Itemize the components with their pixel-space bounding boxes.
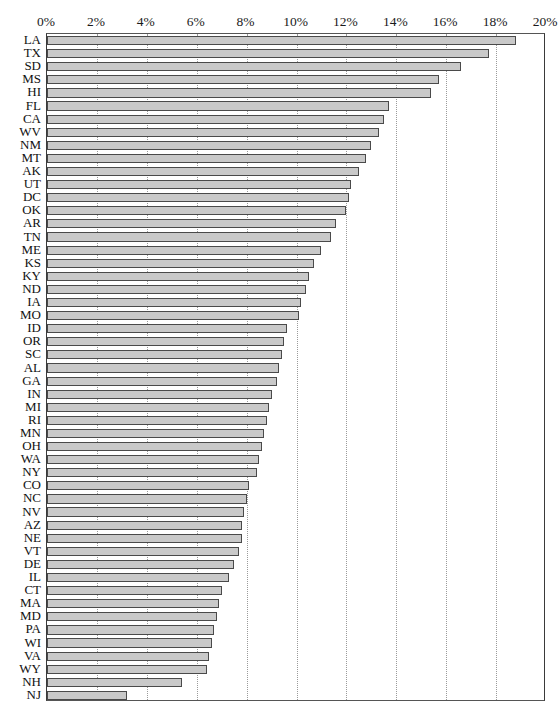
- bar: [47, 101, 389, 110]
- bar: [47, 259, 314, 268]
- bar-row: [47, 521, 544, 530]
- bar: [47, 285, 306, 294]
- x-tick-label: 0%: [37, 14, 55, 30]
- bar-row: [47, 586, 544, 595]
- x-tick-label: 8%: [237, 14, 255, 30]
- bar-row: [47, 219, 544, 228]
- bar-row: [47, 154, 544, 163]
- bar: [47, 115, 384, 124]
- bar-row: [47, 599, 544, 608]
- bar-row: [47, 390, 544, 399]
- bar: [47, 586, 222, 595]
- bar-row: [47, 259, 544, 268]
- bar: [47, 403, 269, 412]
- bar-row: [47, 193, 544, 202]
- bar-row: [47, 534, 544, 543]
- bar: [47, 599, 219, 608]
- bar-row: [47, 62, 544, 71]
- bar-row: [47, 442, 544, 451]
- bar-row: [47, 560, 544, 569]
- bar-row: [47, 298, 544, 307]
- y-axis-tick-labels: LATXSDMSHIFLCAWVNMMTAKUTDCOKARTNMEKSKYND…: [0, 33, 44, 701]
- bar-row: [47, 141, 544, 150]
- bar: [47, 180, 351, 189]
- bar-row: [47, 180, 544, 189]
- bar: [47, 377, 277, 386]
- bar-row: [47, 573, 544, 582]
- bar-row: [47, 49, 544, 58]
- plot-area: [46, 33, 545, 701]
- bar: [47, 665, 207, 674]
- bar: [47, 560, 234, 569]
- bar: [47, 494, 247, 503]
- bar: [47, 481, 249, 490]
- bar: [47, 652, 209, 661]
- bar-row: [47, 128, 544, 137]
- x-tick-label: 18%: [483, 14, 508, 30]
- bar-row: [47, 311, 544, 320]
- bar: [47, 534, 242, 543]
- x-tick-label: 6%: [187, 14, 205, 30]
- bar-row: [47, 206, 544, 215]
- bar-row: [47, 36, 544, 45]
- bar: [47, 638, 212, 647]
- bar-row: [47, 665, 544, 674]
- bar: [47, 272, 309, 281]
- bar: [47, 219, 336, 228]
- bar-row: [47, 115, 544, 124]
- bar-row: [47, 547, 544, 556]
- bar-row: [47, 625, 544, 634]
- x-tick-label: 16%: [433, 14, 458, 30]
- bar: [47, 455, 259, 464]
- bar-row: [47, 101, 544, 110]
- bar-row: [47, 337, 544, 346]
- bar: [47, 167, 359, 176]
- bar: [47, 678, 182, 687]
- bar-row: [47, 246, 544, 255]
- bar: [47, 298, 301, 307]
- bar-row: [47, 88, 544, 97]
- bar: [47, 429, 264, 438]
- y-tick-label: NJ: [27, 687, 41, 702]
- bar: [47, 625, 214, 634]
- bar: [47, 612, 217, 621]
- x-tick-label: 4%: [137, 14, 155, 30]
- bar: [47, 507, 244, 516]
- bar-row: [47, 403, 544, 412]
- bar-row: [47, 363, 544, 372]
- bar: [47, 88, 431, 97]
- bar: [47, 154, 366, 163]
- bar: [47, 206, 346, 215]
- x-tick-label: 20%: [533, 14, 558, 30]
- bar-row: [47, 494, 544, 503]
- bar-row: [47, 507, 544, 516]
- bar-row: [47, 324, 544, 333]
- bars-layer: [47, 34, 544, 700]
- bar: [47, 390, 272, 399]
- bar-row: [47, 75, 544, 84]
- bar: [47, 246, 321, 255]
- bar: [47, 141, 371, 150]
- bar-row: [47, 481, 544, 490]
- bar: [47, 547, 239, 556]
- bar-row: [47, 377, 544, 386]
- bar-row: [47, 652, 544, 661]
- bar: [47, 468, 257, 477]
- bar-row: [47, 167, 544, 176]
- bar: [47, 49, 489, 58]
- bar-row: [47, 468, 544, 477]
- bar-row: [47, 638, 544, 647]
- x-tick-label: 12%: [333, 14, 358, 30]
- bar-row: [47, 678, 544, 687]
- bar: [47, 75, 439, 84]
- bar: [47, 232, 331, 241]
- bar: [47, 350, 282, 359]
- bar: [47, 363, 279, 372]
- bar: [47, 442, 262, 451]
- bar: [47, 62, 461, 71]
- bar-row: [47, 416, 544, 425]
- bar-row: [47, 272, 544, 281]
- bar-row: [47, 455, 544, 464]
- bar-row: [47, 612, 544, 621]
- bar: [47, 193, 349, 202]
